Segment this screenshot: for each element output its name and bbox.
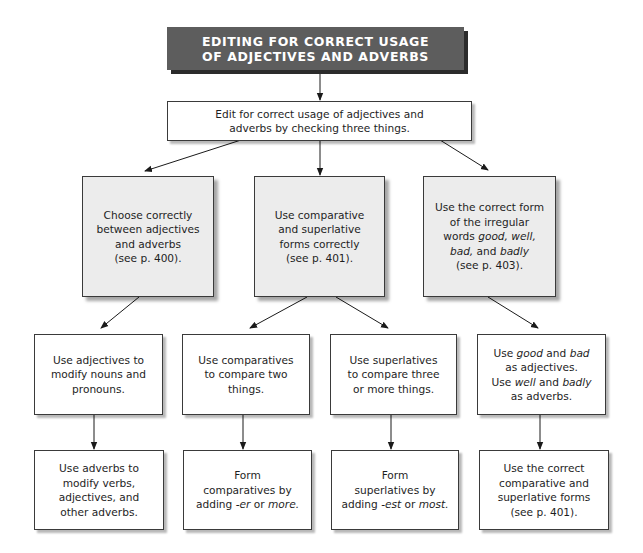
node-text-line: things.	[228, 382, 264, 397]
text-segment: adding	[341, 498, 381, 510]
text-segment: words	[443, 230, 478, 242]
text-segment: Use superlatives	[350, 354, 438, 366]
italic-term: bad,	[450, 245, 473, 257]
node-irregular-words: Use the correct formof the irregularword…	[423, 176, 556, 297]
node-text-line: Use the correct form	[435, 200, 544, 215]
italic-term: good	[517, 347, 543, 359]
node-text-line: words good, well,	[443, 229, 536, 244]
node-form-superlatives: Formsuperlatives byadding -est or most.	[331, 450, 459, 530]
italic-term: -er	[236, 498, 251, 510]
text-segment: Choose correctly	[104, 209, 193, 221]
text-segment: superlatives by	[354, 484, 435, 496]
text-segment: comparative and	[499, 477, 589, 489]
text-segment: other adverbs.	[60, 506, 138, 518]
node-text-line: Use adjectives to	[53, 353, 144, 368]
node-text-line: modify verbs,	[63, 476, 135, 491]
text-segment: (see p. 401).	[286, 252, 353, 264]
node-text-line: Choose correctly	[104, 208, 193, 223]
text-segment: Use the correct form	[435, 201, 544, 213]
node-text-line: of the irregular	[450, 215, 529, 230]
arrow-comparative-to-superlatives	[336, 297, 388, 328]
node-text-line: bad, and badly	[450, 244, 529, 259]
arrow-choose-to-adjectives	[101, 297, 139, 328]
node-text-line: (see p. 401).	[286, 251, 353, 266]
node-form-comparatives: Formcomparatives byadding -er or more.	[183, 450, 312, 530]
text-segment: of the irregular	[450, 216, 529, 228]
text-segment: (see p. 401).	[510, 506, 577, 518]
root-node: Edit for correct usage of adjectives and…	[167, 101, 472, 141]
text-segment: and adverbs	[115, 238, 181, 250]
text-segment: Form	[234, 469, 261, 481]
text-segment: Use comparatives	[198, 354, 293, 366]
node-adjectives-modify-nouns: Use adjectives tomodify nouns andpronoun…	[34, 334, 163, 415]
text-segment: Use adjectives to	[53, 354, 144, 366]
node-text-line: as adjectives.	[505, 360, 578, 375]
text-segment: adjectives, and	[59, 491, 140, 503]
text-segment: (see p. 400).	[114, 252, 181, 264]
node-text-line: Use good and bad	[493, 346, 589, 361]
text-segment: as adjectives.	[505, 361, 578, 373]
italic-term: most.	[419, 498, 449, 510]
arrow-root-to-choose	[145, 140, 241, 171]
text-segment: as adverbs.	[511, 390, 572, 402]
node-text-line: modify nouns and	[51, 367, 146, 382]
node-text-line: as adverbs.	[511, 389, 572, 404]
text-segment: or	[401, 498, 419, 510]
node-text-line: and superlative	[278, 222, 360, 237]
text-segment: and	[473, 245, 500, 257]
text-segment: (see p. 403).	[456, 259, 523, 271]
italic-term: badly	[500, 245, 529, 257]
italic-term: good, well,	[478, 230, 536, 242]
arrow-irregular-to-goodbad	[488, 297, 538, 328]
node-text-line: adjectives, and	[59, 490, 140, 505]
node-text-line: adding -er or more.	[196, 497, 299, 512]
flowchart-canvas: EDITING FOR CORRECT USAGE OF ADJECTIVES …	[0, 0, 643, 553]
node-choose-adjectives-adverbs: Choose correctlybetween adjectivesand ad…	[82, 176, 214, 297]
node-comparatives-two-things: Use comparativesto compare twothings.	[182, 334, 310, 415]
text-segment: Use	[493, 347, 516, 359]
node-correct-comparative-superlative: Use the correctcomparative andsuperlativ…	[479, 450, 609, 530]
text-segment: Form	[382, 469, 409, 481]
italic-term: well	[515, 376, 536, 388]
root-line-1: Edit for correct usage of adjectives and	[215, 107, 423, 122]
text-segment: between adjectives	[96, 223, 199, 235]
text-segment: or more things.	[353, 383, 434, 395]
text-segment: modify verbs,	[63, 477, 135, 489]
text-segment: Use the correct	[503, 462, 584, 474]
text-segment: and superlative	[278, 223, 360, 235]
node-text-line: and adverbs	[115, 237, 181, 252]
italic-term: more.	[268, 498, 299, 510]
text-segment: adding	[196, 498, 236, 510]
text-segment: things.	[228, 383, 264, 395]
arrow-comparative-to-comparatives	[250, 297, 307, 328]
node-comparative-superlative-forms: Use comparativeand superlativeforms corr…	[254, 176, 385, 297]
node-text-line: Form	[382, 468, 409, 483]
node-text-line: adding -est or most.	[341, 497, 448, 512]
node-text-line: Use the correct	[503, 461, 584, 476]
node-text-line: other adverbs.	[60, 505, 138, 520]
title-line-1: EDITING FOR CORRECT USAGE	[202, 34, 429, 49]
text-segment: forms correctly	[280, 238, 360, 250]
node-adverbs-modify-verbs: Use adverbs tomodify verbs,adjectives, a…	[34, 450, 164, 530]
text-segment: pronouns.	[72, 383, 125, 395]
node-text-line: Use comparatives	[198, 353, 293, 368]
node-text-line: Use comparative	[275, 208, 365, 223]
node-text-line: pronouns.	[72, 382, 125, 397]
diagram-title: EDITING FOR CORRECT USAGE OF ADJECTIVES …	[167, 27, 464, 70]
node-text-line: comparative and	[499, 476, 589, 491]
text-segment: Use adverbs to	[59, 462, 139, 474]
node-text-line: between adjectives	[96, 222, 199, 237]
text-segment: and	[536, 376, 563, 388]
node-text-line: (see p. 401).	[510, 505, 577, 520]
node-text-line: to compare three	[348, 367, 440, 382]
italic-term: bad	[570, 347, 590, 359]
italic-term: -est	[381, 498, 401, 510]
text-segment: to compare two	[204, 368, 287, 380]
node-text-line: Use well and badly	[491, 375, 591, 390]
node-text-line: or more things.	[353, 382, 434, 397]
text-segment: modify nouns and	[51, 368, 146, 380]
title-line-2: OF ADJECTIVES AND ADVERBS	[202, 49, 429, 64]
node-text-line: (see p. 400).	[114, 251, 181, 266]
node-text-line: superlative forms	[498, 490, 591, 505]
node-text-line: (see p. 403).	[456, 258, 523, 273]
